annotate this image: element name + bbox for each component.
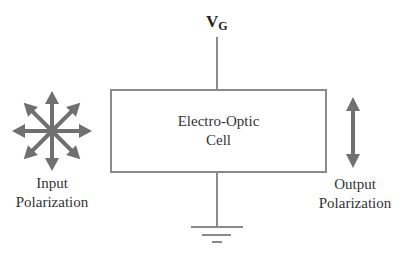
cell-label: Electro-Optic Cell	[111, 112, 326, 150]
output-label-line2: Polarization	[305, 194, 405, 213]
cell-label-line1: Electro-Optic	[111, 112, 326, 131]
input-polarization-icon	[12, 91, 92, 171]
output-polarization-icon	[346, 97, 360, 168]
cell-label-line2: Cell	[111, 131, 326, 150]
diagram-canvas: VG Electro-Optic Cell Input Polarization…	[0, 0, 410, 259]
input-label-line2: Polarization	[2, 193, 102, 212]
ground-symbol	[191, 172, 243, 242]
voltage-subscript: G	[218, 19, 227, 33]
voltage-symbol: V	[206, 12, 218, 31]
gate-voltage-label: VG	[206, 12, 228, 34]
output-polarization-label: Output Polarization	[305, 175, 405, 213]
input-label-line1: Input	[2, 174, 102, 193]
input-polarization-label: Input Polarization	[2, 174, 102, 212]
output-label-line1: Output	[305, 175, 405, 194]
